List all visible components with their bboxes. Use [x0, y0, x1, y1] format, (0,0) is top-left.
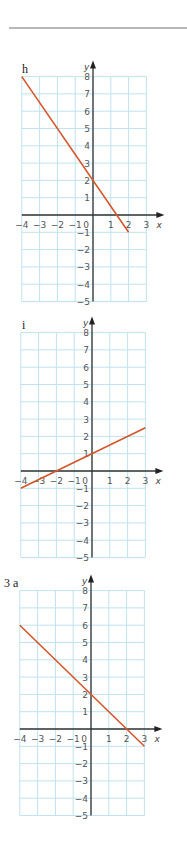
y-tick-label: 7 [83, 345, 89, 355]
x-axis-label: x [153, 734, 160, 744]
y-tick-label: −5 [77, 297, 90, 307]
y-tick-label: −4 [77, 280, 91, 290]
y-tick-label: 2 [83, 432, 89, 442]
y-tick-label: 7 [84, 89, 90, 99]
y-axis-label: y [83, 62, 90, 72]
x-axis-arrow-icon [156, 212, 164, 218]
x-axis-arrow-icon [155, 468, 163, 474]
y-tick-label: 6 [82, 621, 88, 631]
y-tick-label: 5 [83, 380, 89, 390]
x-tick-label: 3 [142, 734, 148, 744]
x-tick-label: 2 [124, 734, 130, 744]
x-tick-label: −3 [33, 220, 46, 230]
x-tick-label: 1 [108, 220, 114, 230]
graph-label: 3 a [4, 576, 19, 590]
y-tick-label: −4 [76, 536, 90, 546]
graph-h: xy−4−3−2−1012387654321−1−2−3−4−5h [15, 61, 164, 307]
graphs: xy−4−3−2−1012387654321−1−2−3−4−5hxy−4−3−… [0, 0, 187, 855]
x-axis-label: x [154, 476, 161, 486]
x-tick-label: −2 [50, 476, 63, 486]
x-tick-label: −3 [31, 734, 44, 744]
x-tick-label: 3 [143, 476, 149, 486]
y-tick-label: −1 [76, 484, 89, 494]
y-tick-label: 4 [83, 397, 89, 407]
y-tick-label: 8 [82, 586, 88, 596]
y-tick-label: −2 [77, 245, 90, 255]
y-axis-label: y [81, 576, 88, 586]
x-tick-label: 1 [107, 476, 113, 486]
graph-3a: xy−4−3−2−1012387654321−1−2−3−4−53 a [4, 575, 162, 821]
y-tick-label: 5 [84, 124, 90, 134]
y-tick-label: 8 [84, 72, 90, 82]
y-tick-label: 2 [84, 176, 90, 186]
y-tick-label: 5 [82, 638, 88, 648]
y-axis-arrow-icon [89, 317, 95, 325]
y-tick-label: 4 [82, 655, 88, 665]
y-tick-label: −2 [75, 759, 88, 769]
y-tick-label: 3 [82, 673, 88, 683]
y-tick-label: −2 [76, 501, 89, 511]
x-tick-label: −4 [15, 220, 29, 230]
x-axis-arrow-icon [154, 726, 162, 732]
x-tick-label: 2 [125, 476, 131, 486]
graph-i: xy−4−3−2−1012387654321−1−2−3−4−5i [14, 317, 163, 563]
y-axis-arrow-icon [90, 61, 96, 69]
y-tick-label: 8 [83, 328, 89, 338]
y-tick-label: 6 [83, 363, 89, 373]
y-tick-label: 6 [84, 107, 90, 117]
y-tick-label: −4 [75, 794, 89, 804]
x-tick-label: −2 [49, 734, 62, 744]
graph-label: h [22, 62, 28, 76]
y-tick-label: 4 [84, 141, 90, 151]
y-tick-label: −1 [75, 742, 88, 752]
y-axis-label: y [82, 318, 89, 328]
y-tick-label: −3 [75, 776, 88, 786]
y-tick-label: 1 [82, 707, 88, 717]
y-tick-label: −3 [76, 518, 89, 528]
y-tick-label: −1 [77, 228, 90, 238]
y-tick-label: 7 [82, 603, 88, 613]
x-axis-label: x [155, 220, 162, 230]
y-tick-label: 1 [84, 193, 90, 203]
x-tick-label: −2 [51, 220, 64, 230]
y-axis-arrow-icon [88, 575, 94, 583]
x-tick-label: −4 [14, 476, 28, 486]
x-tick-label: 1 [106, 734, 112, 744]
x-tick-label: 3 [144, 220, 150, 230]
y-tick-label: −5 [75, 811, 88, 821]
y-tick-label: −3 [77, 262, 90, 272]
y-tick-label: 3 [84, 159, 90, 169]
graph-label: i [22, 318, 26, 332]
x-tick-label: −4 [13, 734, 27, 744]
y-tick-label: −5 [76, 553, 89, 563]
y-tick-label: 3 [83, 415, 89, 425]
